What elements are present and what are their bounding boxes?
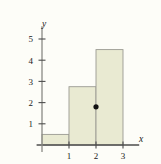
x-tick-label-3: 3 [121, 151, 126, 161]
x-axis-label: x [138, 134, 144, 144]
chart-canvas: 12345 123 y x [0, 0, 161, 164]
y-tick-label-1: 1 [29, 119, 34, 129]
histogram-chart: 12345 123 y x [0, 0, 161, 164]
y-tick-label-2: 2 [29, 98, 34, 108]
y-axis-label: y [41, 19, 47, 29]
bar-bin-1 [69, 87, 96, 145]
data-point-markers [93, 104, 98, 109]
bar-bin-0 [42, 134, 69, 145]
y-tick-label-4: 4 [29, 56, 34, 66]
point-marker [93, 104, 98, 109]
bar-bin-2 [96, 50, 123, 145]
x-tick-label-2: 2 [94, 151, 99, 161]
y-tick-label-3: 3 [29, 77, 34, 87]
x-tick-label-1: 1 [67, 151, 72, 161]
y-tick-label-5: 5 [29, 34, 34, 44]
